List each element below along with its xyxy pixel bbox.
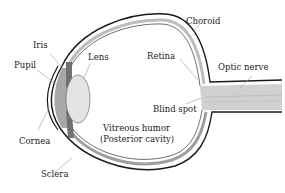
eye-illustration	[0, 0, 285, 193]
label-retina: Retina	[147, 52, 175, 61]
label-cornea: Cornea	[19, 137, 50, 146]
label-lens: Lens	[88, 53, 109, 62]
label-optic-nerve: Optic nerve	[218, 63, 268, 72]
eye-diagram: Iris Pupil Lens Cornea Sclera Choroid Re…	[0, 0, 285, 193]
label-pupil: Pupil	[14, 61, 36, 70]
label-iris: Iris	[33, 41, 48, 50]
label-vitreous-humor: Vitreous humor	[103, 124, 170, 133]
label-posterior-cavity: (Posterior cavity)	[100, 135, 174, 144]
lens	[66, 75, 90, 123]
label-blind-spot: Blind spot	[153, 105, 197, 114]
label-choroid: Choroid	[186, 17, 220, 26]
label-sclera: Sclera	[41, 170, 68, 179]
